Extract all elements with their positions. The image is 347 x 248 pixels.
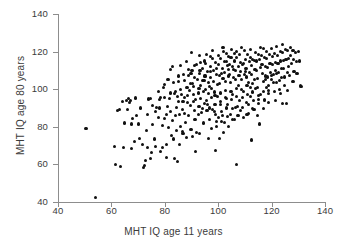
data-point bbox=[219, 103, 222, 106]
data-point bbox=[197, 87, 200, 90]
data-point bbox=[291, 80, 294, 83]
data-point bbox=[206, 103, 209, 106]
data-point bbox=[219, 91, 222, 94]
data-point bbox=[286, 71, 289, 74]
data-point bbox=[169, 91, 172, 94]
data-point bbox=[167, 126, 170, 129]
data-point bbox=[275, 45, 278, 48]
data-point bbox=[266, 66, 269, 69]
data-point bbox=[280, 76, 283, 79]
data-point bbox=[251, 90, 254, 93]
data-point bbox=[253, 78, 256, 81]
data-point bbox=[176, 95, 179, 98]
data-point bbox=[165, 113, 168, 116]
data-point bbox=[213, 90, 216, 93]
data-point bbox=[247, 81, 250, 84]
data-point bbox=[219, 57, 222, 60]
data-point bbox=[287, 57, 290, 60]
data-point bbox=[218, 82, 221, 85]
data-point bbox=[171, 119, 174, 122]
data-point bbox=[187, 68, 190, 71]
data-point bbox=[225, 106, 228, 109]
data-point bbox=[245, 101, 248, 104]
data-point bbox=[240, 78, 243, 81]
data-point bbox=[235, 163, 238, 166]
data-point bbox=[298, 59, 301, 62]
data-point bbox=[198, 69, 201, 72]
data-point bbox=[235, 95, 238, 98]
data-point bbox=[225, 52, 228, 55]
data-point bbox=[223, 71, 226, 74]
data-point bbox=[262, 90, 265, 93]
data-point bbox=[289, 54, 292, 57]
data-point bbox=[185, 136, 188, 139]
data-point bbox=[199, 61, 202, 64]
data-point bbox=[229, 81, 232, 84]
data-point bbox=[278, 88, 281, 91]
data-point bbox=[207, 81, 210, 84]
data-point bbox=[224, 89, 227, 92]
data-point bbox=[186, 94, 189, 97]
data-point bbox=[149, 97, 152, 100]
data-point bbox=[189, 104, 192, 107]
data-point bbox=[267, 89, 270, 92]
data-point bbox=[287, 65, 290, 68]
data-point bbox=[209, 76, 212, 79]
data-point bbox=[193, 118, 196, 121]
data-point bbox=[184, 121, 187, 124]
data-point bbox=[200, 111, 203, 114]
data-point bbox=[149, 157, 152, 160]
data-point bbox=[276, 62, 279, 65]
data-point bbox=[259, 66, 262, 69]
data-point bbox=[190, 51, 193, 54]
data-point bbox=[137, 122, 140, 125]
data-point bbox=[234, 78, 237, 81]
data-point bbox=[250, 73, 253, 76]
data-point bbox=[189, 72, 192, 75]
data-point bbox=[275, 81, 278, 84]
data-point bbox=[213, 94, 216, 97]
data-point bbox=[227, 125, 230, 128]
data-point bbox=[257, 102, 260, 105]
data-point bbox=[216, 95, 219, 98]
data-point bbox=[276, 54, 279, 57]
data-point bbox=[130, 122, 133, 125]
data-point bbox=[229, 113, 232, 116]
data-point bbox=[153, 137, 156, 140]
data-point bbox=[181, 130, 184, 133]
data-point bbox=[201, 107, 204, 110]
data-point bbox=[154, 145, 157, 148]
data-point bbox=[176, 160, 179, 163]
data-point bbox=[241, 106, 244, 109]
data-point bbox=[283, 75, 286, 78]
data-point bbox=[299, 85, 302, 88]
data-point bbox=[177, 100, 180, 103]
data-point bbox=[179, 64, 182, 67]
data-point bbox=[231, 93, 234, 96]
data-point bbox=[239, 109, 242, 112]
data-point bbox=[196, 78, 199, 81]
data-point bbox=[286, 49, 289, 52]
data-point bbox=[179, 88, 182, 91]
data-point bbox=[178, 143, 181, 146]
data-point bbox=[162, 86, 165, 89]
data-point bbox=[221, 114, 224, 117]
data-point bbox=[204, 88, 207, 91]
data-point bbox=[233, 59, 236, 62]
data-point bbox=[205, 99, 208, 102]
data-point bbox=[243, 49, 246, 52]
data-point bbox=[188, 89, 191, 92]
data-point bbox=[228, 73, 231, 76]
data-point bbox=[265, 86, 268, 89]
data-point bbox=[198, 54, 201, 57]
data-point bbox=[146, 146, 149, 149]
data-point bbox=[274, 99, 277, 102]
data-point bbox=[238, 53, 241, 56]
data-point bbox=[133, 140, 136, 143]
plot-area bbox=[58, 14, 325, 202]
data-point bbox=[214, 149, 217, 152]
data-point bbox=[178, 113, 181, 116]
data-point bbox=[205, 53, 208, 56]
data-point bbox=[248, 60, 251, 63]
data-point bbox=[283, 84, 286, 87]
